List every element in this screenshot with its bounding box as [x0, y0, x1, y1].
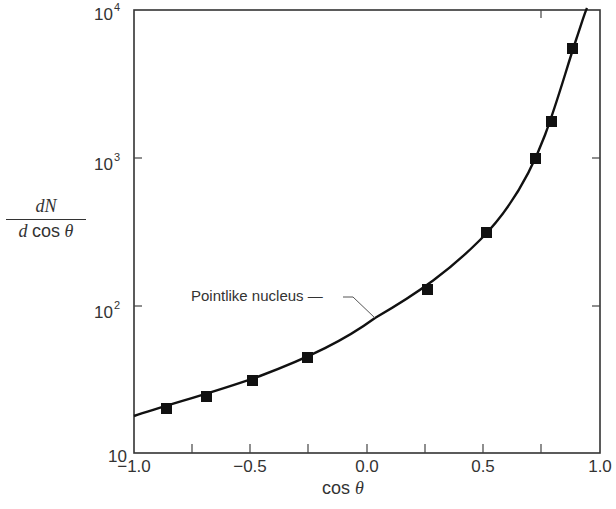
- plot-frame: [134, 10, 600, 453]
- y-tick-label-1e3: 10 3: [94, 151, 120, 174]
- svg-text:4: 4: [114, 1, 120, 13]
- svg-text:10: 10: [94, 5, 113, 24]
- y-tick-label: 10: [108, 447, 127, 466]
- pointlike-nucleus-curve: [134, 8, 587, 416]
- svg-text:10: 10: [94, 155, 113, 174]
- data-point: [567, 43, 578, 54]
- data-point: [161, 403, 172, 414]
- annotation-leader: [343, 297, 375, 318]
- y-label-denominator: d cos θ: [6, 220, 86, 242]
- x-axis-label: cos θ: [322, 478, 364, 499]
- data-point: [302, 352, 313, 363]
- data-point: [546, 116, 557, 127]
- data-points: [161, 43, 578, 414]
- data-point: [201, 391, 212, 402]
- svg-text:10: 10: [94, 303, 113, 322]
- x-tick-label: 0.0: [355, 457, 379, 476]
- chart-canvas: −1.0 −0.5 0.0 0.5 1.0 10 10 2 10 3 10 4: [0, 0, 616, 509]
- curve-annotation: Pointlike nucleus —: [191, 287, 323, 304]
- x-tick-label: −0.5: [233, 457, 267, 476]
- data-point: [422, 284, 433, 295]
- y-label-numerator: dN: [6, 196, 86, 220]
- svg-text:2: 2: [114, 299, 120, 311]
- x-tick-label: 0.5: [471, 457, 495, 476]
- y-tick-label-1e2: 10 2: [94, 299, 120, 322]
- y-axis-label: dN d cos θ: [6, 196, 86, 242]
- data-point: [530, 153, 541, 164]
- data-point: [481, 227, 492, 238]
- x-tick-label: 1.0: [588, 457, 612, 476]
- y-tick-label-1e4: 10 4: [94, 1, 120, 24]
- data-point: [247, 375, 258, 386]
- y-ticks: [134, 158, 600, 306]
- svg-text:3: 3: [114, 151, 120, 163]
